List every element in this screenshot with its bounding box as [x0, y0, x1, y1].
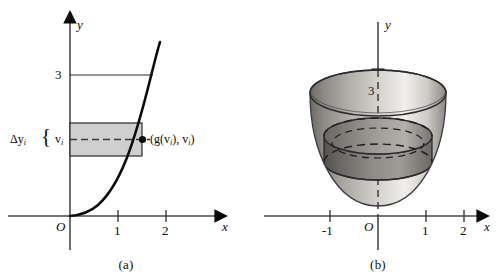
- panel-b-x-tick-label-1: 1: [422, 224, 429, 237]
- panel-a-y-tick-label-3: 3: [55, 68, 62, 81]
- panel-b-x-tick-label-2: 2: [460, 224, 467, 237]
- figure-root: y x O 1 2 3 Δyi { vi (g(vi), vi) (a): [0, 0, 504, 277]
- panel-b-height-label: 3: [368, 84, 375, 97]
- panel-a-x-axis-label: x: [222, 220, 228, 233]
- panel-a-plane-region: y x O 1 2 3 Δyi { vi (g(vi), vi) (a): [0, 0, 252, 277]
- curve-point-label: (g(vi), vi): [150, 133, 195, 147]
- panel-a-y-axis-label: y: [77, 18, 83, 31]
- panel-b-caption: (b): [252, 257, 504, 273]
- representative-washer-slab: [324, 118, 432, 180]
- v-sub-i-label: vi: [55, 133, 63, 147]
- panel-b-x-tick-label-neg1: -1: [322, 224, 333, 237]
- panel-a-origin-label: O: [56, 220, 65, 233]
- point-label-close: ): [191, 132, 195, 146]
- panel-a-x-tick-label-2: 2: [162, 224, 169, 237]
- panel-b-y-axis-label: y: [385, 18, 391, 31]
- delta-y-label: Δyi: [10, 133, 26, 147]
- strip-brace: {: [41, 126, 51, 147]
- v-subscript: i: [61, 138, 63, 147]
- point-label-open: (g(v: [150, 132, 170, 146]
- delta-y-text: Δy: [10, 132, 24, 146]
- panel-a-x-tick-label-1: 1: [114, 224, 121, 237]
- panel-b-origin-label: O: [364, 220, 373, 233]
- panel-b-x-axis-label: x: [484, 220, 490, 233]
- panel-a-caption: (a): [0, 257, 252, 273]
- panel-b-solid-of-revolution: y x O -1 1 2 3 (b): [252, 0, 504, 277]
- curve-point-marker: [139, 136, 146, 143]
- delta-y-subscript: i: [24, 138, 26, 147]
- panel-a-graphic: [0, 0, 252, 277]
- point-label-mid: ), v: [172, 132, 188, 146]
